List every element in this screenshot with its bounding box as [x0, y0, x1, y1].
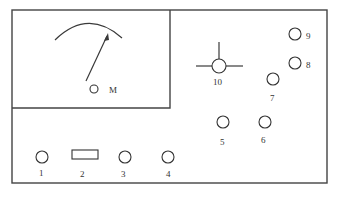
- meter-zero-adjust-knob[interactable]: [90, 85, 98, 93]
- component-3-knob[interactable]: [119, 151, 131, 163]
- component-7-label: 7: [270, 93, 275, 103]
- component-5-label: 5: [220, 137, 225, 147]
- component-2-switch[interactable]: [72, 150, 98, 159]
- component-8-knob[interactable]: [289, 57, 301, 69]
- component-6-knob[interactable]: [259, 116, 271, 128]
- component-3-label: 3: [121, 169, 126, 179]
- component-8-label: 8: [306, 60, 311, 70]
- component-1-knob[interactable]: [36, 151, 48, 163]
- component-10-label: 10: [213, 77, 223, 87]
- component-2-label: 2: [80, 169, 85, 179]
- component-6-label: 6: [261, 135, 266, 145]
- meter-scale-arc: [55, 23, 122, 40]
- panel-diagram: M 10 9 8 7 5 6 1 2 3 4: [0, 0, 339, 197]
- component-9-knob[interactable]: [289, 28, 301, 40]
- component-9-label: 9: [306, 31, 311, 41]
- component-10-knob[interactable]: [212, 59, 226, 73]
- meter-box-frame: [12, 10, 170, 108]
- needle-arrowhead-icon: [104, 33, 109, 41]
- meter-needle: [86, 36, 107, 81]
- component-5-knob[interactable]: [217, 116, 229, 128]
- component-7-knob[interactable]: [267, 73, 279, 85]
- component-4-knob[interactable]: [162, 151, 174, 163]
- component-4-label: 4: [166, 169, 171, 179]
- meter-label: M: [109, 85, 117, 95]
- component-1-label: 1: [39, 168, 44, 178]
